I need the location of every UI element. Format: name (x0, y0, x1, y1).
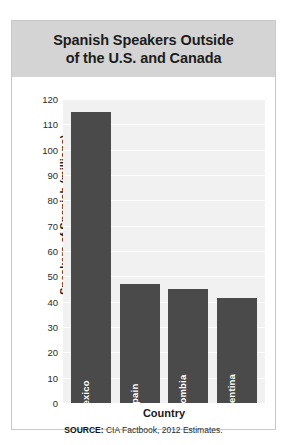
bar-series: MexicoSpainColombiaArgentina (63, 99, 265, 403)
y-tick-label: 60 (47, 246, 58, 257)
y-tick-label: 110 (43, 119, 58, 130)
bar-category-label: Spain (129, 384, 140, 403)
y-tick-label: 40 (47, 296, 58, 307)
y-tick-label: 120 (42, 94, 58, 105)
bar[interactable]: Argentina (217, 298, 257, 403)
source-note: SOURCE: CIA Factbook, 2012 Estimates. (12, 425, 275, 435)
chart-title-line-1: Spanish Speakers Outside (53, 31, 234, 49)
y-tick-label: 0 (53, 398, 58, 409)
bar-category-label: Argentina (226, 374, 237, 403)
chart-title-band: Spanish Speakers Outside of the U.S. and… (12, 21, 275, 77)
chart-body: Speakers of Spanish (millions) 120110100… (12, 77, 275, 431)
x-axis-title: Country (63, 407, 265, 419)
y-tick-label: 90 (47, 170, 58, 181)
chart-title-line-2: of the U.S. and Canada (66, 49, 222, 67)
y-tick-label: 70 (47, 220, 58, 231)
y-axis-tick-labels: 1201101009080706050403020100 (32, 99, 58, 403)
bar-category-label: Colombia (177, 375, 188, 403)
y-tick-label: 20 (47, 347, 58, 358)
y-tick-label: 100 (42, 144, 58, 155)
y-tick-label: 30 (47, 322, 58, 333)
source-text: CIA Factbook, 2012 Estimates. (104, 425, 223, 435)
bar[interactable]: Spain (120, 284, 160, 403)
y-tick-label: 50 (47, 271, 58, 282)
plot-area: MexicoSpainColombiaArgentina (63, 99, 265, 403)
bar[interactable]: Colombia (168, 289, 208, 403)
bar[interactable]: Mexico (71, 112, 111, 403)
source-label: SOURCE: (64, 425, 103, 435)
y-tick-label: 10 (47, 372, 58, 383)
chart-figure: Spanish Speakers Outside of the U.S. and… (11, 20, 276, 430)
y-tick-label: 80 (47, 195, 58, 206)
bar-category-label: Mexico (80, 380, 91, 403)
